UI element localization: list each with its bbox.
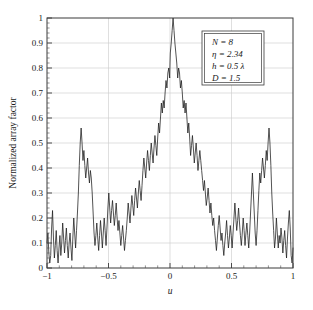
array-factor-plot: 00.10.20.30.40.50.60.70.80.91−1−0.500.51…	[0, 0, 313, 310]
y-tick-label: 0.7	[32, 88, 44, 98]
x-tick-label: −1	[42, 271, 52, 281]
y-tick-label: 0.8	[32, 63, 44, 73]
x-axis-title: u	[168, 286, 173, 296]
x-tick-label: −0.5	[100, 271, 117, 281]
y-tick-label: 0.3	[32, 188, 44, 198]
y-axis-title: Normalized array factor	[8, 97, 18, 189]
x-tick-label: 1	[291, 271, 296, 281]
legend-parameter-N: N = 8	[211, 37, 234, 47]
y-tick-label: 0.9	[32, 38, 44, 48]
chart-figure: 00.10.20.30.40.50.60.70.80.91−1−0.500.51…	[0, 0, 313, 310]
x-tick-label: 0	[168, 271, 173, 281]
y-tick-label: 1	[39, 13, 44, 23]
x-tick-label: 0.5	[226, 271, 238, 281]
legend-parameter-η: η = 2.34	[212, 49, 243, 59]
y-tick-label: 0.5	[32, 138, 44, 148]
y-tick-label: 0.6	[32, 113, 44, 123]
y-tick-label: 0.1	[32, 238, 43, 248]
legend-parameter-D: D = 1.5	[211, 73, 241, 83]
y-tick-label: 0.4	[32, 163, 44, 173]
legend-parameter-h: h = 0.5 λ	[212, 61, 245, 71]
y-tick-label: 0.2	[32, 213, 43, 223]
